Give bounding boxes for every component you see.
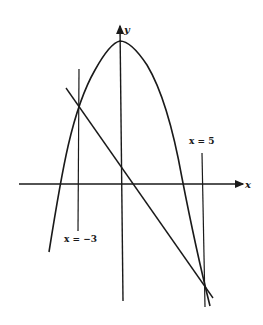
straight-line	[66, 88, 213, 298]
label-x-neg3: x = −3	[64, 234, 97, 244]
vertical-line-x-neg3	[78, 69, 79, 231]
label-x-5: x = 5	[189, 136, 214, 146]
y-axis-label: y	[123, 24, 131, 35]
x-axis-label: x	[244, 179, 252, 190]
graph-diagram: x y x = −3 x = 5	[0, 0, 263, 325]
y-axis	[120, 26, 123, 301]
parabola-curve	[49, 41, 210, 306]
